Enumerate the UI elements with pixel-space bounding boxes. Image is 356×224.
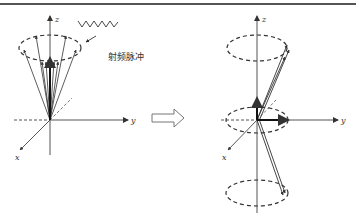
y-label-left: y xyxy=(130,116,136,125)
right-panel: z y x xyxy=(221,15,346,213)
spin-precession-diagram: z y x xyxy=(0,0,356,224)
left-panel: z y x xyxy=(14,15,144,162)
header-rule xyxy=(0,3,356,5)
rf-pulse-label: 射频脉冲 xyxy=(108,51,144,62)
x-axis-right xyxy=(228,120,257,150)
z-label-right: z xyxy=(261,15,267,24)
x-axis-left xyxy=(20,120,50,150)
figure: z y x xyxy=(0,0,356,224)
x-label-left: x xyxy=(15,153,20,162)
rf-pulse-arrow xyxy=(86,36,96,42)
transition-arrow xyxy=(152,109,184,127)
y-label-right: y xyxy=(340,116,346,125)
rf-pulse-wave xyxy=(78,21,118,27)
z-label-left: z xyxy=(54,15,60,24)
x-label-right: x xyxy=(222,153,227,162)
